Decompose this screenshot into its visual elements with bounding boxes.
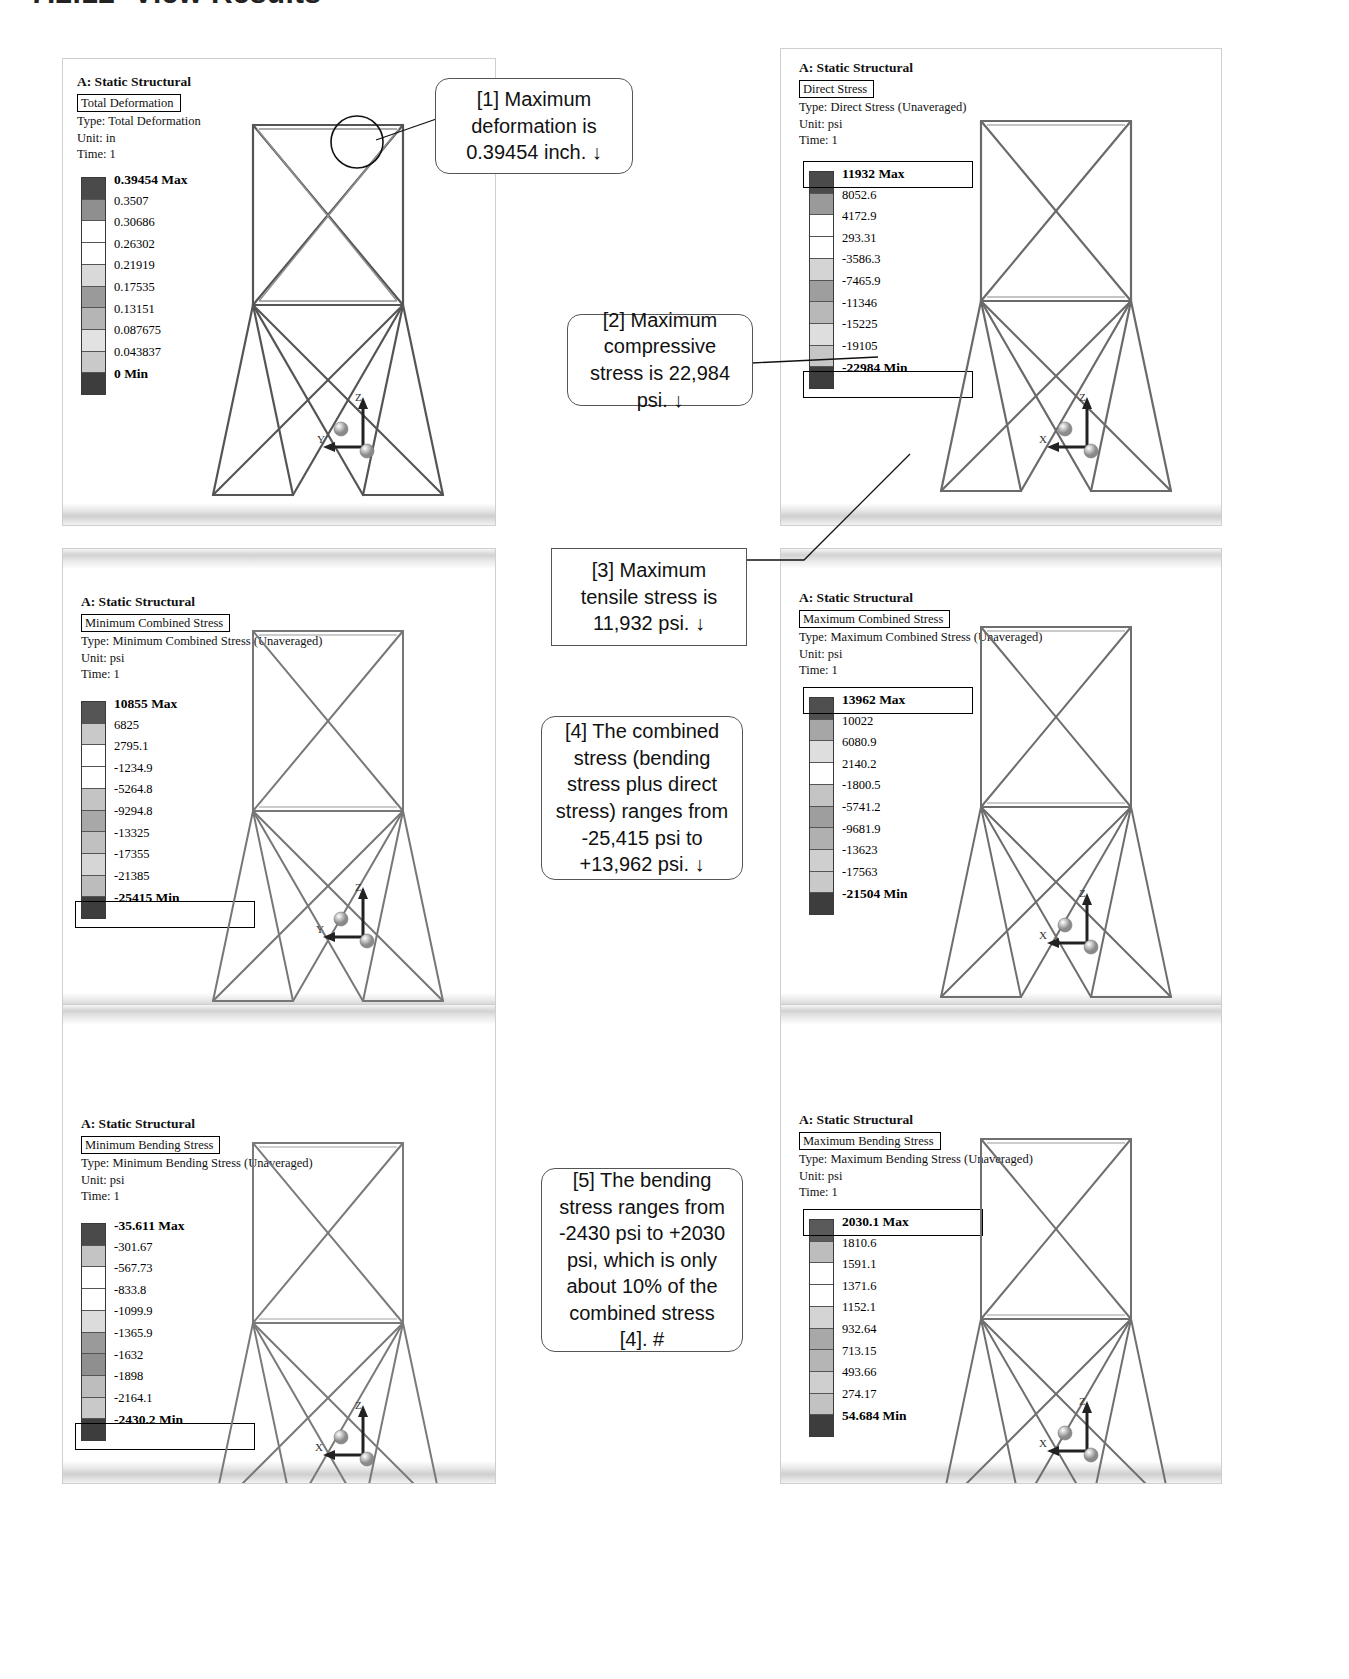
leader-line-2: [752, 352, 882, 374]
svg-text:Z: Z: [1079, 887, 1086, 899]
svg-text:Z: Z: [1079, 1395, 1086, 1407]
legend-max: 2030.1 Max: [842, 1211, 909, 1233]
legend-value: -9294.8: [114, 801, 180, 823]
legend-value: 2795.1: [114, 736, 180, 758]
legend-min: -25415 Min: [114, 887, 180, 909]
legend-value: -2164.1: [114, 1388, 185, 1410]
result-panel-maximum-combined-stress[interactable]: A: Static Structural Maximum Combined St…: [780, 548, 1222, 1016]
legend-color-bar: [81, 1223, 106, 1441]
legend-value: -17563: [842, 862, 908, 884]
legend-value: 1810.6: [842, 1233, 909, 1255]
panel-shadow-top: [63, 1005, 495, 1025]
legend-value: -1234.9: [114, 758, 180, 780]
svg-text:Z: Z: [355, 881, 362, 893]
project-title: A: Static Structural: [799, 589, 1043, 607]
legend-value: -1365.9: [114, 1323, 185, 1345]
triad-1: Z Y: [315, 389, 395, 469]
result-panel-maximum-bending-stress[interactable]: A: Static Structural Maximum Bending Str…: [780, 1004, 1222, 1484]
legend-value: 1371.6: [842, 1276, 909, 1298]
legend-color-bar: [81, 701, 106, 919]
legend-value: 0.30686: [114, 212, 188, 234]
legend-color-bar: [809, 1219, 834, 1437]
legend-labels: 2030.1 Max 1810.6 1591.1 1371.6 1152.1 9…: [842, 1211, 909, 1427]
svg-text:X: X: [315, 1441, 323, 1453]
legend-value: 274.17: [842, 1384, 909, 1406]
legend-value: 6825: [114, 715, 180, 737]
legend-value: -833.8: [114, 1280, 185, 1302]
legend-value: 2140.2: [842, 754, 908, 776]
legend-color-bar: [809, 697, 834, 915]
legend-value: -11346: [842, 293, 908, 315]
result-name-box: Direct Stress: [799, 80, 874, 98]
triad-6: Z X: [1039, 1393, 1119, 1473]
panel-shadow-bottom: [63, 503, 495, 525]
legend-max: -35.611 Max: [114, 1215, 185, 1237]
legend-value: -1898: [114, 1366, 185, 1388]
legend-value: 0.26302: [114, 234, 188, 256]
legend-min: 54.684 Min: [842, 1405, 909, 1427]
leader-line-3: [744, 452, 914, 562]
svg-text:X: X: [1039, 929, 1047, 941]
svg-text:Z: Z: [355, 391, 362, 403]
project-title: A: Static Structural: [799, 59, 966, 77]
callout-5: [5] The bending stress ranges from -2430…: [541, 1168, 743, 1352]
legend-value: -13325: [114, 823, 180, 845]
legend-labels: 10855 Max 6825 2795.1 -1234.9 -5264.8 -9…: [114, 693, 180, 909]
result-name-box: Total Deformation: [77, 94, 181, 112]
legend-value: -567.73: [114, 1258, 185, 1280]
legend-min: -21504 Min: [842, 883, 908, 905]
svg-text:Y: Y: [316, 923, 324, 935]
page-title-text: View Results: [133, 0, 321, 9]
legend-max: 13962 Max: [842, 689, 908, 711]
page-title: 7.2.12View Results: [30, 0, 321, 10]
result-panel-minimum-combined-stress[interactable]: A: Static Structural Minimum Combined St…: [62, 548, 496, 1016]
legend-value: 0.13151: [114, 299, 188, 321]
legend-labels: 0.39454 Max 0.3507 0.30686 0.26302 0.219…: [114, 169, 188, 385]
legend-value: 10022: [842, 711, 908, 733]
legend-value: -13623: [842, 840, 908, 862]
result-time: Time: 1: [77, 146, 201, 163]
legend-value: 0.17535: [114, 277, 188, 299]
legend-value: 0.043837: [114, 342, 188, 364]
legend-value: -5264.8: [114, 779, 180, 801]
legend-labels: 13962 Max 10022 6080.9 2140.2 -1800.5 -5…: [842, 689, 908, 905]
legend-value: -15225: [842, 314, 908, 336]
legend-value: -21385: [114, 866, 180, 888]
legend-max: 11932 Max: [842, 163, 908, 185]
legend-min: -2430.2 Min: [114, 1409, 185, 1431]
legend-value: 932.64: [842, 1319, 909, 1341]
legend-value: 1152.1: [842, 1297, 909, 1319]
legend-value: -1099.9: [114, 1301, 185, 1323]
legend-value: -9681.9: [842, 819, 908, 841]
panel-shadow-top: [781, 1005, 1221, 1025]
legend-value: -17355: [114, 844, 180, 866]
legend-value: 4172.9: [842, 206, 908, 228]
legend-value: 0.087675: [114, 320, 188, 342]
result-type: Type: Total Deformation: [77, 113, 201, 130]
legend-max: 10855 Max: [114, 693, 180, 715]
project-title: A: Static Structural: [81, 593, 322, 611]
legend-value: -301.67: [114, 1237, 185, 1259]
page-title-number: 7.2.12: [30, 0, 115, 9]
svg-text:Y: Y: [317, 433, 325, 445]
legend-labels: 11932 Max 8052.6 4172.9 293.31 -3586.3 -…: [842, 163, 908, 379]
callout-2: [2] Maximum compressive stress is 22,984…: [567, 314, 753, 406]
svg-text:X: X: [1039, 1437, 1047, 1449]
legend-value: 6080.9: [842, 732, 908, 754]
ansys-header-block: A: Static Structural Total Deformation T…: [77, 73, 201, 163]
legend-value: 8052.6: [842, 185, 908, 207]
legend-value: 0.21919: [114, 255, 188, 277]
svg-text:X: X: [1039, 433, 1047, 445]
callout-1: [1] Maximum deformation is 0.39454 inch.…: [435, 78, 633, 174]
triad-3: Z Y: [315, 879, 395, 959]
svg-text:Z: Z: [355, 1399, 362, 1411]
legend-labels: -35.611 Max -301.67 -567.73 -833.8 -1099…: [114, 1215, 185, 1431]
legend-value: 293.31: [842, 228, 908, 250]
result-panel-minimum-bending-stress[interactable]: A: Static Structural Minimum Bending Str…: [62, 1004, 496, 1484]
legend-value: -1632: [114, 1345, 185, 1367]
callout-3: [3] Maximum tensile stress is 11,932 psi…: [551, 548, 747, 646]
legend-value: 713.15: [842, 1341, 909, 1363]
callout-4: [4] The combined stress (bending stress …: [541, 716, 743, 880]
panel-shadow-top: [63, 549, 495, 569]
result-name-box: Maximum Bending Stress: [799, 1132, 941, 1150]
